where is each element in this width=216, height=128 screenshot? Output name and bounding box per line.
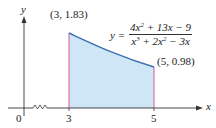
tick-label-5: 5: [151, 113, 157, 124]
point-label-left: (3, 1.83): [50, 9, 88, 20]
x-axis-label: x: [206, 101, 211, 112]
axis-break-zigzag: [33, 105, 47, 109]
equation-fraction: 4x2 + 13x − 9 x3 + 2x2 − 3x: [129, 22, 192, 47]
y-axis-label: y: [21, 4, 26, 15]
y-axis: [22, 16, 27, 116]
equation-denominator: x3 + 2x2 − 3x: [130, 35, 191, 47]
equation-lhs: y =: [110, 30, 125, 41]
origin-label: 0: [16, 113, 22, 124]
tick-label-3: 3: [66, 113, 72, 124]
y-axis-arrow-icon: [22, 16, 27, 23]
x-axis-arrow-icon: [196, 106, 203, 111]
point-label-right: (5, 0.98): [157, 56, 195, 67]
equation-numerator: 4x2 + 13x − 9: [129, 22, 192, 34]
